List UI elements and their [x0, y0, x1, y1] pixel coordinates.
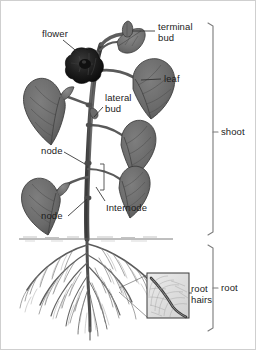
plant-illustration [1, 1, 256, 350]
label-leaf: leaf [164, 74, 180, 85]
label-shoot: shoot [221, 127, 245, 138]
label-flower: flower [42, 29, 68, 40]
shoot-bracket [208, 23, 218, 235]
label-terminal-bud-line1: terminal [158, 22, 193, 33]
label-terminal-bud-line2: bud [158, 33, 174, 44]
label-node-upper: node [41, 146, 63, 157]
label-lateral-bud-line1: lateral [105, 93, 132, 104]
leaf-shape-lower-left [21, 178, 70, 235]
leaf-shape-upper-right [133, 59, 175, 119]
internode-bracket [100, 164, 104, 190]
soil-line-shape [19, 237, 173, 241]
terminal-bud-shape [122, 21, 132, 37]
label-root: root [221, 283, 238, 294]
label-node-lower: node [41, 211, 63, 222]
leaf-shape-upper-left [24, 78, 75, 145]
label-lateral-bud-line2: bud [105, 104, 121, 115]
label-internode: Internode [106, 203, 147, 214]
plant-structure-figure: flower terminal bud leaf lateral bud nod… [0, 0, 256, 350]
label-root-hairs-line1: root [191, 284, 208, 295]
root-system [20, 239, 153, 340]
label-root-hairs-line2: hairs [191, 295, 212, 306]
root-bracket [208, 245, 218, 331]
